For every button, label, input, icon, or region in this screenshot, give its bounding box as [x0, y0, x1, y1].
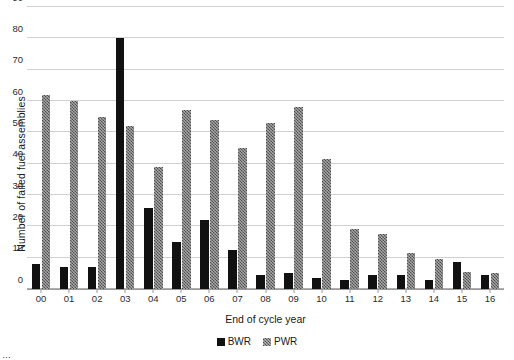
bar-bwr-07	[228, 250, 237, 289]
legend-swatch-pwr-icon	[263, 338, 271, 346]
bar-pwr-00	[42, 95, 51, 289]
x-axis-tick-label: 11	[345, 293, 355, 304]
x-axis-tick-label: 14	[429, 293, 440, 304]
bar-bwr-12	[368, 275, 377, 289]
x-axis-tick-label: 16	[485, 293, 496, 304]
bar-bwr-04	[144, 208, 153, 289]
bar-group	[251, 7, 279, 289]
y-axis-tick-label: 80	[12, 22, 23, 33]
bar-group	[336, 7, 364, 289]
x-axis-tick-label: 13	[400, 293, 411, 304]
bar-bwr-08	[256, 275, 265, 289]
bar-group	[27, 7, 55, 289]
bar-pwr-08	[266, 123, 275, 289]
x-axis-title: End of cycle year	[27, 313, 504, 325]
bar-bwr-09	[284, 273, 293, 289]
x-axis-tick-label: 05	[176, 293, 187, 304]
bar-bwr-16	[481, 275, 490, 289]
bar-bwr-11	[340, 280, 349, 289]
bar-pwr-10	[322, 159, 331, 289]
y-axis-tick-label: 40	[12, 148, 23, 159]
bar-pwr-01	[70, 101, 79, 289]
legend-swatch-bwr-icon	[217, 338, 225, 346]
bar-group	[167, 7, 195, 289]
bar-pwr-15	[463, 272, 472, 289]
legend-entry-pwr[interactable]: PWR	[263, 337, 297, 347]
x-axis-tick-label: 06	[204, 293, 215, 304]
bar-bwr-05	[172, 242, 181, 289]
bar-pwr-05	[182, 110, 191, 289]
bar-group	[139, 7, 167, 289]
bar-pwr-09	[294, 107, 303, 289]
y-axis-tick-label: 20	[12, 210, 23, 221]
bar-pwr-16	[491, 273, 500, 289]
bar-group	[280, 7, 308, 289]
bar-pwr-07	[238, 148, 247, 289]
y-axis-tick-label: 10	[12, 242, 23, 253]
legend-label: BWR	[228, 337, 251, 347]
x-axis-tick-label: 01	[64, 293, 75, 304]
bar-pwr-14	[435, 259, 444, 289]
x-axis-tick-label: 07	[232, 293, 243, 304]
bar-bwr-01	[60, 267, 69, 289]
x-axis-tick-label: 09	[288, 293, 299, 304]
bar-group	[392, 7, 420, 289]
caption-fragment: …	[2, 351, 11, 360]
bar-chart: Number of failed fuel assemblies 0102030…	[0, 0, 514, 360]
bar-bwr-10	[312, 278, 321, 289]
bar-bwr-00	[32, 264, 41, 289]
x-axis-tick-label: 02	[92, 293, 103, 304]
bar-pwr-12	[378, 234, 387, 289]
y-axis-tick-label: 50	[12, 116, 23, 127]
bar-bwr-14	[425, 280, 434, 289]
bar-group	[420, 7, 448, 289]
bar-group	[111, 7, 139, 289]
bar-group	[195, 7, 223, 289]
x-axis-tick-label: 00	[36, 293, 47, 304]
chart-legend: BWRPWR	[0, 337, 514, 347]
bar-group	[364, 7, 392, 289]
y-axis-tick-label: 90	[12, 0, 23, 2]
bar-group	[448, 7, 476, 289]
x-axis-tick-label: 03	[120, 293, 131, 304]
bar-pwr-02	[98, 117, 107, 289]
x-axis-tick-label: 08	[260, 293, 271, 304]
y-axis-title: Number of failed fuel assemblies	[15, 89, 27, 259]
y-axis-tick-label: 30	[12, 179, 23, 190]
x-axis-tick-label: 04	[148, 293, 159, 304]
bar-pwr-06	[210, 120, 219, 289]
y-axis-tick-label: 60	[12, 85, 23, 96]
bar-group	[55, 7, 83, 289]
bar-bwr-06	[200, 220, 209, 289]
bar-group	[83, 7, 111, 289]
bar-pwr-04	[154, 167, 163, 289]
bars-layer	[27, 7, 504, 289]
legend-entry-bwr[interactable]: BWR	[217, 337, 251, 347]
bar-bwr-15	[453, 262, 462, 289]
bar-group	[308, 7, 336, 289]
x-axis-tick-label: 10	[316, 293, 327, 304]
legend-label: PWR	[274, 337, 297, 347]
bar-pwr-03	[126, 126, 135, 289]
bar-bwr-03	[116, 38, 125, 289]
x-axis-tick-label: 15	[457, 293, 468, 304]
bar-group	[223, 7, 251, 289]
bar-bwr-13	[397, 275, 406, 289]
bar-pwr-13	[407, 253, 416, 289]
y-axis-tick-label: 0	[18, 273, 23, 284]
y-axis-tick-label: 70	[12, 54, 23, 65]
x-axis-tick-label: 12	[372, 293, 383, 304]
bar-bwr-02	[88, 267, 97, 289]
plot-area: 0102030405060708090	[27, 7, 504, 289]
bar-pwr-11	[350, 229, 359, 289]
x-axis-tick-labels: 0001020304050607080910111213141516	[27, 293, 504, 309]
bar-group	[476, 7, 504, 289]
